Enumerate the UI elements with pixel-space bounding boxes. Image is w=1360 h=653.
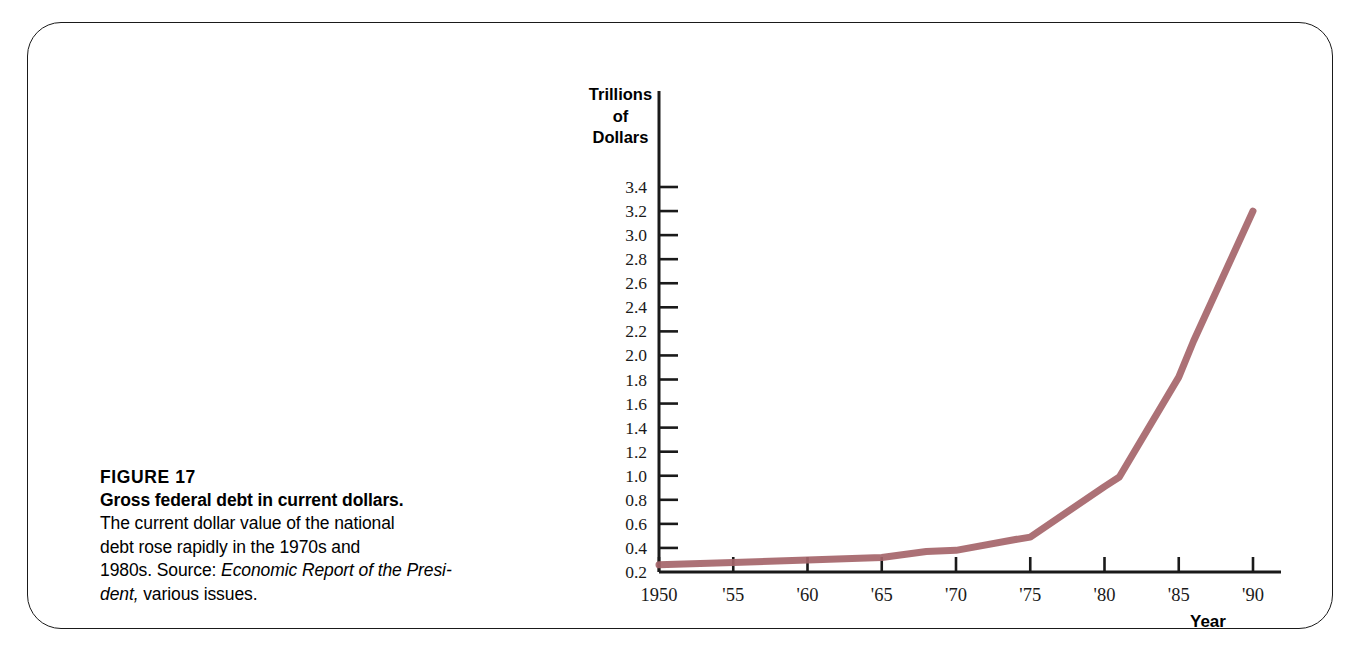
x-axis-tick-label: 1950: [641, 585, 678, 605]
caption-line-1: The current dollar value of the national: [100, 513, 395, 533]
debt-line-series: [659, 211, 1253, 565]
y-axis-tick-label: 1.8: [625, 370, 647, 390]
y-axis-tick-label: 0.6: [625, 514, 647, 534]
y-axis-tick-label: 1.4: [625, 418, 647, 438]
figure-description: The current dollar value of the national…: [100, 512, 490, 606]
y-axis-tick-label: 1.2: [625, 442, 647, 462]
y-axis-tick-label: 0.8: [625, 490, 647, 510]
y-axis-tick-label: 2.0: [625, 345, 647, 365]
y-axis-tick-label: 2.2: [625, 321, 647, 341]
x-axis-tick-label: '70: [945, 585, 967, 605]
y-axis-tick-label: 1.6: [625, 394, 647, 414]
x-axis-tick-label: '55: [722, 585, 744, 605]
y-axis-tick-label: 3.2: [625, 201, 647, 221]
x-axis-tick-label: '75: [1019, 585, 1041, 605]
x-axis-tick-label: '60: [797, 585, 819, 605]
x-axis-tick-label: '90: [1242, 585, 1264, 605]
figure-frame: FIGURE 17 Gross federal debt in current …: [27, 22, 1333, 629]
y-axis-tick-label: 0.2: [625, 562, 647, 582]
source-title: Economic Report of the Presi-: [221, 560, 452, 580]
caption-line-4: various issues.: [138, 584, 257, 604]
chart-plot-area: Trillions of Dollars Year 3.43.23.02.82.…: [573, 71, 1313, 631]
caption-line-2: debt rose rapidly in the 1970s and: [100, 537, 360, 557]
chart-svg: 3.43.23.02.82.62.42.22.01.81.61.41.21.00…: [573, 71, 1313, 631]
caption-line-3: 1980s. Source:: [100, 560, 221, 580]
figure-caption: FIGURE 17 Gross federal debt in current …: [100, 466, 490, 606]
x-axis-tick-label: '65: [871, 585, 893, 605]
source-title-continued: dent,: [100, 584, 138, 604]
figure-title: Gross federal debt in current dollars.: [100, 489, 490, 512]
y-axis-tick-label: 0.4: [625, 538, 647, 558]
y-axis-tick-label: 3.0: [625, 225, 647, 245]
x-axis-tick-label: '85: [1168, 585, 1190, 605]
figure-number: FIGURE 17: [100, 466, 490, 489]
y-axis-tick-label: 2.6: [625, 273, 647, 293]
x-axis-tick-label: '80: [1094, 585, 1116, 605]
y-axis-tick-label: 1.0: [625, 466, 647, 486]
y-axis-tick-label: 2.4: [625, 297, 647, 317]
y-axis-tick-label: 2.8: [625, 249, 647, 269]
y-axis-tick-label: 3.4: [625, 177, 647, 197]
